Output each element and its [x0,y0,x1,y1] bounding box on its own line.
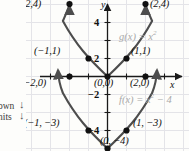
dot-1-neg3 [123,127,129,133]
label-point-1-neg3: (1, −3) [133,118,161,129]
label-point-0-neg4: (0, −4) [100,136,128,147]
label-function-f-text: f(x) = x [119,94,151,105]
dot-2-4 [142,1,148,7]
label-point-neg1-1: (−1,1) [34,46,60,57]
label-point-0-0: (0,0) [94,78,113,89]
margin-note-line2: nits [0,112,12,124]
x-axis-label: x [170,80,174,90]
label-point-2-0: (2,0) [130,78,149,89]
graph-figure: y x 4 2 −2 −4 (−2,4) (2,4) (−1,1) (1,1) … [0,0,189,151]
label-point-neg2-4: (−2,4) [26,0,41,10]
label-point-2-4: (2,4) [150,0,169,10]
down-arrow-icon-secondary: ↓ [19,110,25,121]
y-tick-neg4: −4 [88,126,99,137]
label-function-f: f(x) = x2 − 4 [119,93,172,105]
y-axis-label: y [101,0,105,10]
dot-neg2-4 [66,1,72,7]
label-point-neg2-0: (−2,0) [26,78,46,89]
label-function-g: g(x) = x2 [119,30,156,42]
y-tick-neg2: −2 [88,90,99,101]
dot-neg2-0 [66,73,72,79]
y-tick-2: 2 [94,54,99,65]
label-function-f-tail: − 4 [154,94,172,105]
label-point-neg1-neg3: (−1, −3) [26,118,59,129]
label-point-1-1: (1,1) [131,46,150,57]
dot-1-1 [123,55,129,61]
label-function-g-text: g(x) = x [119,31,153,42]
y-tick-4: 4 [94,18,99,29]
dot-neg1-1 [85,55,91,61]
plot-area: y x 4 2 −2 −4 (−2,4) (2,4) (−1,1) (1,1) … [26,0,189,151]
label-function-g-exponent: 2 [153,29,157,37]
